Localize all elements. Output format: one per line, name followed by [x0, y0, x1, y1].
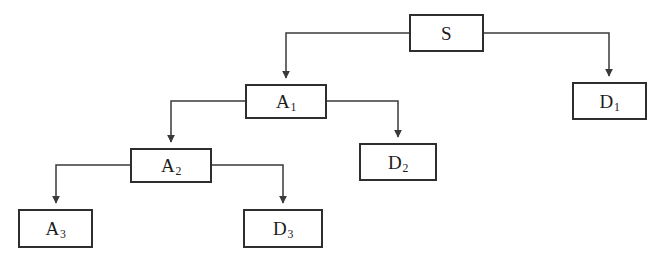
connector-a1-to-d2	[327, 101, 398, 137]
node-a1[interactable]: A1	[245, 84, 327, 119]
node-s[interactable]: S	[409, 14, 484, 52]
node-a2-label: A2	[161, 156, 181, 175]
node-d1[interactable]: D1	[572, 82, 647, 120]
connector-a2-to-a3	[56, 165, 130, 203]
node-d2[interactable]: D2	[359, 143, 437, 181]
node-d2-label: D2	[388, 153, 408, 172]
node-a3-label: A3	[45, 219, 65, 238]
node-d1-label: D1	[599, 92, 619, 111]
connector-a1-to-a2	[171, 101, 245, 142]
node-d3-label: D3	[273, 219, 293, 238]
node-a2[interactable]: A2	[130, 148, 212, 183]
connector-s-to-a1	[286, 33, 409, 78]
node-d3[interactable]: D3	[243, 209, 323, 248]
connector-s-to-d1	[484, 33, 609, 76]
node-a3[interactable]: A3	[18, 209, 93, 248]
connector-layer	[0, 0, 659, 266]
node-s-label: S	[441, 24, 452, 43]
connector-a2-to-d3	[212, 165, 283, 203]
node-a1-label: A1	[276, 92, 296, 111]
diagram-canvas: S D1 A1 D2 A2 A3 D3	[0, 0, 659, 266]
